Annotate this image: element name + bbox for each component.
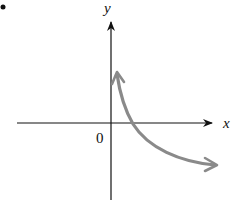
origin-label: 0: [96, 130, 104, 146]
graph-canvas: x y 0: [0, 0, 234, 200]
y-axis-label: y: [102, 0, 111, 16]
bullet-icon: [1, 5, 6, 10]
x-axis-label: x: [222, 115, 230, 131]
curve: [117, 74, 215, 165]
